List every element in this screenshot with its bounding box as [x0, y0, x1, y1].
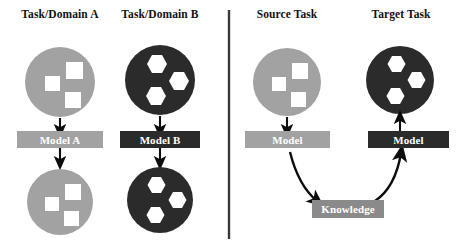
- heading-task-domain-b: Task/Domain B: [108, 7, 212, 21]
- heading-target-task: Target Task: [355, 7, 447, 21]
- model-box-b: Model B: [120, 131, 200, 148]
- curved-arrow-icon: [375, 153, 401, 201]
- model-box-a: Model A: [17, 131, 103, 148]
- heading-source-task: Source Task: [241, 7, 333, 21]
- task-domain-b-dataset-bottom: [127, 167, 193, 233]
- curved-arrow-icon: [290, 152, 317, 201]
- source-task-dataset: [253, 48, 321, 116]
- target-task-dataset: [366, 46, 434, 114]
- diagram-graphics-layer: [0, 0, 462, 250]
- transfer-learning-diagram: Task/Domain A Task/Domain B Source Task …: [0, 0, 462, 250]
- heading-task-domain-a: Task/Domain A: [8, 7, 112, 21]
- task-domain-b-dataset-top: [125, 45, 195, 115]
- model-box-source: Model: [245, 131, 330, 148]
- knowledge-box: Knowledge: [312, 200, 384, 218]
- task-domain-a-dataset-top: [25, 47, 95, 117]
- task-domain-a-dataset-bottom: [27, 169, 93, 235]
- model-box-target: Model: [368, 131, 449, 148]
